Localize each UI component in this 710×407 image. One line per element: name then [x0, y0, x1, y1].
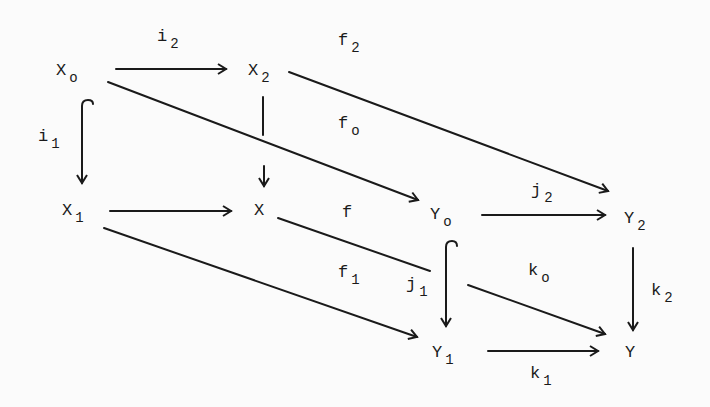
node-base: X — [62, 201, 72, 220]
node-base: X — [248, 61, 258, 80]
label-subscript: 2 — [170, 36, 178, 52]
label-k1: k1 — [530, 365, 552, 382]
label-subscript: 2 — [544, 190, 552, 206]
label-subscript: 2 — [351, 40, 359, 56]
label-base: i — [38, 127, 48, 146]
node-x: X — [254, 202, 264, 219]
node-subscript: o — [443, 214, 451, 230]
label-subscript: o — [541, 270, 549, 286]
label-base: j — [531, 181, 541, 200]
label-base: f — [338, 114, 348, 133]
arrow-f1 — [104, 228, 417, 337]
label-f1: f1 — [338, 264, 360, 281]
node-subscript: 1 — [75, 210, 83, 226]
label-subscript: 1 — [351, 272, 359, 288]
node-base: X — [254, 201, 264, 220]
node-y2: Y2 — [624, 210, 646, 227]
label-j2: j2 — [531, 182, 553, 199]
label-j1: j1 — [406, 276, 428, 293]
label-f: f — [342, 204, 352, 221]
label-i1: i1 — [38, 128, 60, 145]
label-subscript: 1 — [543, 373, 551, 389]
label-subscript: 2 — [664, 290, 672, 306]
node-subscript: 2 — [261, 70, 269, 86]
label-base: f — [338, 263, 348, 282]
node-base: X — [56, 61, 66, 80]
diagram-arrows — [0, 0, 710, 407]
node-y1: Y1 — [432, 344, 454, 361]
label-k2: k2 — [651, 282, 673, 299]
arrow-f2 — [289, 72, 608, 191]
label-k0: ko — [528, 262, 550, 279]
label-f0: fo — [338, 115, 360, 132]
arrow-k0 — [468, 285, 605, 334]
node-x2: X2 — [248, 62, 270, 79]
label-f2: f2 — [338, 32, 360, 49]
node-base: Y — [624, 209, 634, 228]
label-i2: i2 — [157, 28, 179, 45]
label-subscript: 1 — [51, 136, 59, 152]
node-base: Y — [625, 343, 635, 362]
label-subscript: 1 — [419, 284, 427, 300]
node-base: Y — [432, 343, 442, 362]
label-base: f — [338, 31, 348, 50]
node-subscript: 1 — [445, 352, 453, 368]
label-base: k — [530, 364, 540, 383]
label-base: f — [342, 203, 352, 222]
node-subscript: 2 — [637, 218, 645, 234]
label-base: k — [528, 261, 538, 280]
arrow-i1-hook — [82, 100, 93, 183]
label-base: j — [406, 275, 416, 294]
node-y0: Yo — [430, 206, 452, 223]
node-x0: Xo — [56, 62, 78, 79]
node-subscript: o — [69, 70, 77, 86]
node-base: Y — [430, 205, 440, 224]
node-y: Y — [625, 344, 635, 361]
label-subscript: o — [351, 123, 359, 139]
node-x1: X1 — [62, 202, 84, 219]
label-base: k — [651, 281, 661, 300]
arrow-j1-hook — [446, 241, 457, 326]
label-base: i — [157, 27, 167, 46]
